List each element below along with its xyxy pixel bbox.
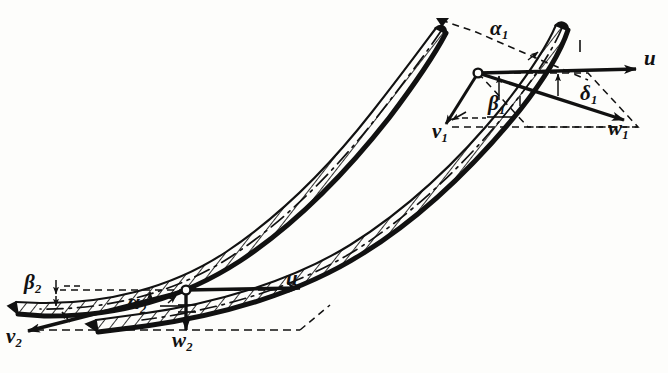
label-u2: u <box>286 268 298 289</box>
label-w2: w2 <box>172 330 193 354</box>
label-alpha1: α1 <box>490 18 508 42</box>
vector-u1 <box>478 69 636 73</box>
outlet-closure-dashed <box>300 305 330 330</box>
pivot-point-1 <box>474 69 483 78</box>
vector-u2 <box>186 288 300 290</box>
blade-upper-hatch <box>16 28 446 316</box>
pivot-point-2 <box>182 286 191 295</box>
blade-upper-trailing-edge <box>8 302 18 314</box>
label-alpha2: α2 <box>128 292 146 316</box>
blade-upper-camber-line <box>40 31 441 309</box>
label-delta1: δ1 <box>580 83 597 107</box>
label-v2: v2 <box>6 326 22 350</box>
blade-upper-suction-edge <box>18 33 446 316</box>
label-beta1: β1 <box>488 93 505 117</box>
vector-v1 <box>446 73 478 124</box>
label-w1: w1 <box>608 118 629 142</box>
label-v1: v1 <box>432 121 448 145</box>
label-u1: u <box>644 48 656 69</box>
blade-upper <box>8 26 446 316</box>
diagram-svg <box>0 0 668 373</box>
label-beta2: β2 <box>24 272 41 296</box>
figure-canvas: u w1 v1 α1 β1 δ1 u w2 v2 α2 β2 <box>0 0 668 373</box>
